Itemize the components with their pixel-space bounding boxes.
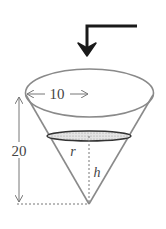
cone-rim-ellipse xyxy=(26,69,154,117)
water-height-label: h xyxy=(94,165,101,180)
height-label: 20 xyxy=(12,143,27,159)
water-radius-label: r xyxy=(70,144,76,159)
cone-diagram: 20 10 r h xyxy=(0,0,166,229)
radius-label: 10 xyxy=(50,86,65,102)
inflow-arrow-icon xyxy=(78,26,137,56)
